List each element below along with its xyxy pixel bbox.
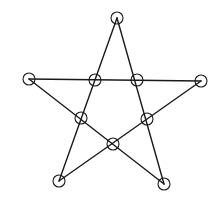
edge-outer-top-outer-bottom-left: [59, 18, 117, 181]
edge-outer-left-outer-right: [29, 79, 201, 81]
node-layer: [23, 12, 207, 190]
pentagram-diagram: [0, 0, 222, 207]
edge-outer-right-outer-bottom-left: [59, 81, 201, 181]
edge-layer: [29, 18, 201, 184]
edge-outer-top-outer-bottom-right: [117, 18, 164, 184]
edge-outer-left-outer-bottom-right: [29, 79, 164, 184]
